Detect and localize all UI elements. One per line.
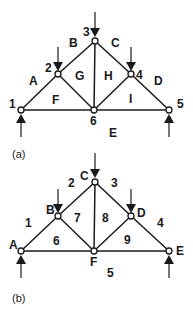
figure-caption: (a)	[12, 148, 25, 160]
reaction-arrow-icon	[164, 114, 174, 137]
space-label: D	[154, 74, 163, 88]
joint-node	[166, 248, 172, 254]
joint-node	[55, 71, 61, 77]
load-arrow-icon	[90, 12, 100, 37]
node-label: 2	[45, 61, 52, 75]
space-label: 9	[124, 233, 131, 247]
load-arrow-icon	[126, 47, 136, 71]
joint-node	[55, 213, 61, 219]
truss-diagram-canvas: 1 2 3 4 5 6 A B C D E F G H I (a)	[0, 0, 193, 312]
truss-figure-b: A B C D E F 1 2 3 4 5 6 7 8 9 (b)	[9, 153, 184, 304]
member-C-F	[94, 182, 95, 251]
space-label: 1	[25, 216, 32, 230]
joint-node	[18, 248, 24, 254]
space-label: 4	[157, 216, 164, 230]
joint-node	[92, 38, 98, 44]
reaction-arrow-icon	[16, 255, 26, 278]
node-label: 5	[177, 97, 184, 111]
joint-node	[18, 107, 24, 113]
node-label: D	[137, 206, 146, 220]
space-label: 2	[68, 176, 75, 190]
node-label: 4	[136, 68, 143, 82]
node-label: 1	[9, 97, 16, 111]
space-label: E	[109, 126, 117, 140]
space-label: 8	[102, 211, 109, 225]
reaction-arrow-icon	[16, 114, 26, 137]
node-label: A	[9, 238, 18, 252]
node-label: B	[46, 203, 55, 217]
node-label: 3	[83, 25, 90, 39]
joint-node	[166, 107, 172, 113]
node-label: E	[176, 244, 184, 258]
load-arrow-icon	[90, 153, 100, 178]
node-label: F	[90, 255, 97, 269]
space-label: 5	[107, 266, 114, 280]
space-label: C	[111, 36, 120, 50]
member-3-6	[94, 41, 95, 110]
space-label: A	[29, 74, 38, 88]
load-arrow-icon	[126, 189, 136, 213]
joint-node	[91, 107, 97, 113]
space-label: 6	[53, 234, 60, 248]
node-label: C	[80, 169, 89, 183]
space-label: F	[52, 93, 59, 107]
load-arrow-icon	[53, 47, 63, 71]
space-label: 7	[74, 211, 81, 225]
joint-node	[128, 213, 134, 219]
node-label: 6	[90, 114, 97, 128]
reaction-arrow-icon	[164, 255, 174, 278]
space-label: I	[129, 92, 132, 106]
space-label: G	[75, 69, 84, 83]
joint-node	[91, 248, 97, 254]
figure-caption: (b)	[12, 292, 25, 304]
space-label: H	[104, 69, 113, 83]
joint-node	[92, 179, 98, 185]
joint-node	[128, 71, 134, 77]
truss-figure-a: 1 2 3 4 5 6 A B C D E F G H I (a)	[9, 12, 184, 160]
space-label: B	[69, 36, 78, 50]
space-label: 3	[111, 176, 118, 190]
